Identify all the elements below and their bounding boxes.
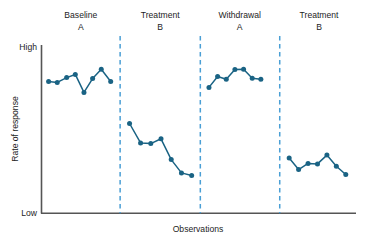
y-tick-label-low: Low <box>21 208 38 218</box>
phase-headers: Baseline A Treatment B Withdrawal A Trea… <box>64 10 339 32</box>
y-axis-title: Rate of response <box>10 96 20 162</box>
data-point <box>159 136 164 141</box>
x-axis-title: Observations <box>173 224 224 234</box>
data-point <box>55 80 60 85</box>
phase-label-baseline-a-name: Baseline <box>64 10 97 20</box>
phase-label-treatment-b1-condition: B <box>157 22 163 32</box>
phase-series-1 <box>46 67 113 95</box>
data-point <box>250 76 255 81</box>
data-point <box>46 79 51 84</box>
data-point <box>73 72 78 77</box>
data-point <box>324 153 329 158</box>
data-point <box>99 67 104 72</box>
phase-divider-lines <box>120 36 280 213</box>
data-point <box>189 173 194 178</box>
chart-container: Baseline A Treatment B Withdrawal A Trea… <box>0 0 365 242</box>
data-point <box>179 170 184 175</box>
data-point <box>148 141 153 146</box>
phase-label-withdrawal-a-condition: A <box>237 22 243 32</box>
y-tick-label-high: High <box>19 42 37 52</box>
data-point <box>232 67 237 72</box>
data-point <box>169 157 174 162</box>
data-point <box>90 76 95 81</box>
data-point <box>287 156 292 161</box>
phase-label-treatment-b2-condition: B <box>316 22 322 32</box>
data-series-group <box>46 67 348 178</box>
phase-label-withdrawal-a-name: Withdrawal <box>218 10 261 20</box>
phase-series-3 <box>206 67 263 90</box>
data-point <box>343 172 348 177</box>
phase-label-treatment-b1-name: Treatment <box>141 10 180 20</box>
data-point <box>108 79 113 84</box>
data-point <box>224 77 229 82</box>
phase-series-2 <box>127 121 194 178</box>
data-point <box>215 74 220 79</box>
data-point <box>127 121 132 126</box>
axes <box>41 45 356 214</box>
data-line <box>130 124 192 176</box>
data-point <box>206 85 211 90</box>
data-point <box>306 161 311 166</box>
data-point <box>81 90 86 95</box>
data-point <box>64 75 69 80</box>
phase-label-baseline-a-condition: A <box>78 22 84 32</box>
data-point <box>296 167 301 172</box>
phase-label-treatment-b2-name: Treatment <box>300 10 339 20</box>
data-point <box>258 77 263 82</box>
data-point <box>315 161 320 166</box>
phase-series-4 <box>287 153 349 177</box>
single-case-design-line-chart: Baseline A Treatment B Withdrawal A Trea… <box>0 0 365 242</box>
data-point <box>241 67 246 72</box>
data-point <box>138 140 143 145</box>
data-point <box>334 164 339 169</box>
